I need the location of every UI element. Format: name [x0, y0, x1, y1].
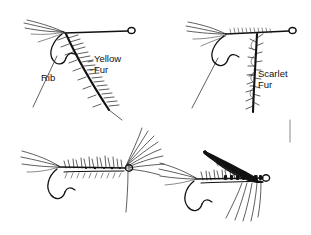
fly-illustration-figure: Rib Yellow Fur: [0, 0, 311, 235]
label-scarlet: Scarlet: [258, 68, 288, 79]
hook-shank: [59, 167, 126, 168]
label-fur-yellow: Fur: [94, 64, 108, 75]
label-yellow: Yellow: [94, 53, 121, 64]
label-rib: Rib: [41, 72, 55, 83]
fly-illustration-canvas: Rib Yellow Fur: [0, 0, 311, 235]
label-fur-scarlet: Fur: [258, 79, 272, 90]
figure-background: [0, 0, 311, 235]
